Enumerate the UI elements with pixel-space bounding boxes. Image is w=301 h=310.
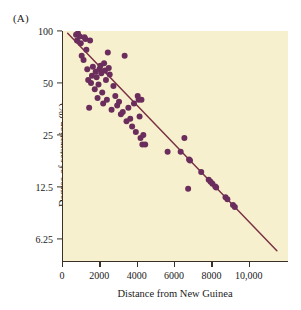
x-tick-mark [137,262,138,267]
x-tick-label: 2000 [89,270,109,281]
x-tick-mark [174,262,175,267]
data-point [224,196,230,202]
scatter-plot-svg [63,31,289,262]
data-point [122,53,128,59]
data-point [104,97,110,103]
x-tick-label: 10,000 [235,270,263,281]
data-point [213,185,219,191]
data-point [81,57,87,63]
x-axis-title: Distance from New Guinea [62,288,288,299]
y-tick-label: 12.5 [36,182,54,193]
data-point [105,50,111,56]
x-tick-mark [99,262,100,267]
data-point [142,142,148,148]
data-point [131,101,137,107]
data-point [88,80,94,86]
data-point [109,107,115,113]
data-point [106,65,112,71]
x-tick-label: 8000 [201,270,221,281]
y-tick-label: 100 [38,26,53,37]
data-point [95,95,101,101]
x-tick-label: 0 [60,270,65,281]
data-point [185,186,191,192]
x-tick-label: 4000 [127,270,147,281]
data-point [181,135,187,141]
data-point [125,105,131,111]
data-points [73,31,238,210]
data-point [103,77,109,83]
y-tick-label: 6.25 [36,234,54,245]
data-point [187,157,193,163]
data-point [133,129,139,135]
data-point [94,74,100,80]
data-point [165,149,171,155]
data-point [87,38,93,44]
data-point [107,72,113,78]
data-point [112,93,118,99]
x-tick-mark [211,262,212,267]
data-point [178,149,184,155]
data-point [129,124,135,130]
data-point [99,90,105,96]
data-point [137,113,143,119]
data-point [232,204,238,210]
figure-panel-a: (A) Degree of saturation (%) 100502512.5… [0,0,301,310]
data-point [120,109,126,115]
y-tick-label: 25 [43,130,53,141]
x-tick-mark [249,262,250,267]
data-point [78,40,84,46]
data-point [86,105,92,111]
data-point [116,99,122,105]
y-axis: Degree of saturation (%) 100502512.56.25 [0,0,62,310]
data-point [92,86,98,92]
x-tick-mark [62,262,63,267]
data-point [140,132,146,138]
x-tick-label: 6000 [164,270,184,281]
data-point [138,97,144,103]
data-point [83,47,89,53]
data-point [95,82,101,88]
plot-area [62,31,288,262]
data-point [110,83,116,89]
data-point [127,116,133,122]
data-point [101,60,107,66]
data-point [84,66,90,72]
data-point [198,169,204,175]
y-tick-label: 50 [43,78,53,89]
